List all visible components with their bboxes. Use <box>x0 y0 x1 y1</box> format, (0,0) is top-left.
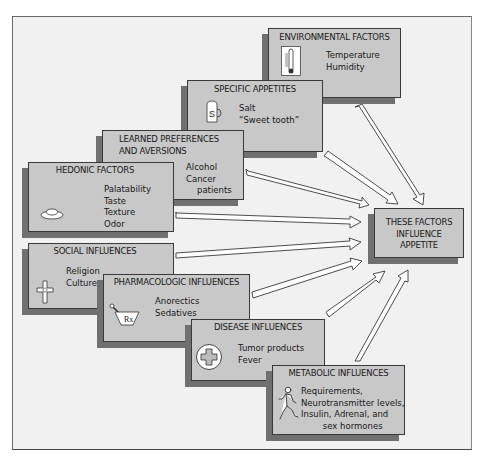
thermometer-icon <box>281 46 301 76</box>
svg-text:S: S <box>209 109 215 119</box>
item-odor: Odor <box>104 219 151 231</box>
item-sedatives: Sedatives <box>155 308 199 320</box>
item-anorectics: Anorectics <box>155 296 199 308</box>
arrow-disease <box>326 271 385 317</box>
target-appetite-title: THESE FACTORS INFLUENCE APPETITE <box>375 217 463 252</box>
item-culture: Culture <box>66 278 100 290</box>
item-temperature: Temperature <box>326 50 380 62</box>
learned-preferences-items: Alcohol Cancer patients <box>186 162 232 197</box>
disease-influences-title: DISEASE INFLUENCES <box>192 322 324 334</box>
arrow-environmental <box>355 104 424 205</box>
mortar-pestle-rx-icon: Rx <box>109 303 141 327</box>
arrow-hedonic <box>176 212 361 228</box>
arrow-pharmacologic <box>252 258 362 298</box>
target-line-2: INFLUENCE <box>375 229 463 241</box>
item-salt: Salt <box>239 103 299 115</box>
arrow-social <box>176 238 361 258</box>
medical-cross-icon <box>195 343 223 371</box>
metabolic-influences-items: Requirements, Neurotransmitter levels, I… <box>301 386 404 432</box>
target-line-1: THESE FACTORS <box>375 217 463 229</box>
hedonic-factors-title: HEDONIC FACTORS <box>29 165 161 177</box>
cross-icon <box>36 280 54 304</box>
item-requirements: Requirements, <box>301 386 404 398</box>
item-insulin-adrenal: Insulin, Adrenal, and <box>301 409 404 421</box>
item-tumor-products: Tumor products <box>238 343 304 355</box>
item-taste: Taste <box>104 196 151 208</box>
metabolic-influences-title: METABOLIC INFLUENCES <box>273 368 404 380</box>
learned-preferences-title: LEARNED PREFERENCES AND AVERSIONS <box>119 134 243 157</box>
plate-icon <box>40 206 64 220</box>
hedonic-factors-box: HEDONIC FACTORS Palatability Taste Textu… <box>28 162 174 232</box>
arrow-learned <box>246 169 369 208</box>
running-person-icon <box>276 386 300 422</box>
item-texture: Texture <box>104 207 151 219</box>
environmental-factors-title: ENVIRONMENTAL FACTORS <box>269 32 400 44</box>
environmental-factors-items: Temperature Humidity <box>326 50 380 73</box>
specific-appetites-items: Salt “Sweet tooth” <box>239 103 299 126</box>
item-palatability: Palatability <box>104 184 151 196</box>
item-humidity: Humidity <box>326 62 380 74</box>
pharmacologic-influences-items: Anorectics Sedatives <box>155 296 199 319</box>
item-sweet-tooth: “Sweet tooth” <box>239 115 299 127</box>
arrow-metabolic <box>355 270 408 361</box>
learned-title-line-2: AND AVERSIONS <box>119 146 243 158</box>
target-appetite-box: THESE FACTORS INFLUENCE APPETITE <box>374 208 464 258</box>
item-neurotransmitter-levels: Neurotransmitter levels, <box>301 398 404 410</box>
metabolic-influences-box: METABOLIC INFLUENCES Requirements, Neuro… <box>272 365 405 435</box>
item-cancer: Cancer <box>186 174 232 186</box>
disease-influences-items: Tumor products Fever <box>238 343 304 366</box>
item-sex-hormones: sex hormones <box>301 421 404 433</box>
pharmacologic-influences-title: PHARMACOLOGIC INFLUENCES <box>104 277 249 289</box>
item-alcohol: Alcohol <box>186 162 232 174</box>
hedonic-factors-items: Palatability Taste Texture Odor <box>104 184 151 230</box>
salt-shaker-icon: S <box>205 100 223 124</box>
target-line-3: APPETITE <box>375 240 463 252</box>
social-influences-items: Religion Culture <box>66 266 100 289</box>
learned-title-line-1: LEARNED PREFERENCES <box>119 134 243 146</box>
specific-appetites-title: SPECIFIC APPETITES <box>188 84 322 96</box>
svg-text:Rx: Rx <box>124 315 133 324</box>
item-patients: patients <box>186 185 232 197</box>
item-religion: Religion <box>66 266 100 278</box>
social-influences-title: SOCIAL INFLUENCES <box>29 246 161 258</box>
